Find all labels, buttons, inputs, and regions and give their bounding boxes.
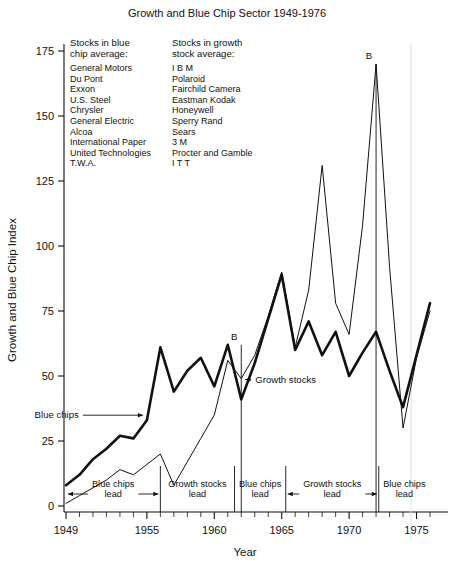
period-label-line2: lead [104,489,121,499]
x-axis-title: Year [233,546,256,558]
chart-canvas: Growth and Blue Chip Sector 1949-1976 Gr… [0,0,454,561]
y-tick-label: 100 [36,240,54,252]
legend-item: Procter and Gamble [172,148,253,158]
period-label: Growth stocks [168,479,227,489]
legend-item: Polaroid [172,74,205,84]
period-label-line2: lead [396,489,413,499]
legend-item: I B M [172,63,193,73]
legend-header-line2: chip average: [70,48,128,59]
x-tick-label: 1975 [404,524,428,536]
legend-item: United Technologies [70,148,151,158]
b-marker-label: B [231,331,237,342]
legend-item: General Electric [70,116,135,126]
y-tick-label: 25 [42,435,54,447]
period-label: Growth stocks [303,479,362,489]
legend-header-line1: Stocks in growth [172,37,242,48]
y-tick-label: 75 [42,305,54,317]
y-tick-label: 150 [36,110,54,122]
y-tick-label: 50 [42,370,54,382]
legend-item: Eastman Kodak [172,95,236,105]
legend-header-line2: stock average: [172,48,234,59]
legend-item: Fairchild Camera [172,84,241,94]
y-tick-label: 125 [36,175,54,187]
legend-item: Chrysler [70,105,104,115]
legend-item: Alcoa [70,127,93,137]
period-label: Blue chips [239,479,282,489]
period-label-line2: lead [324,489,341,499]
period-label: Blue chips [92,479,135,489]
x-tick-label: 1955 [135,524,159,536]
x-tick-label: 1949 [54,524,78,536]
legend-item: 3 M [172,137,187,147]
legend-item: T.W.A. [70,158,96,168]
chart-title: Growth and Blue Chip Sector 1949-1976 [128,7,326,19]
series-callout-label: Growth stocks [255,374,316,385]
legend-item: Exxon [70,84,95,94]
y-tick-label: 175 [36,45,54,57]
legend-header-line1: Stocks in blue [70,37,130,48]
y-axis-title: Growth and Blue Chip Index [6,218,18,362]
legend-item: I T T [172,158,191,168]
x-tick-label: 1960 [202,524,226,536]
legend-item: Du Pont [70,74,103,84]
legend-item: Sears [172,127,196,137]
b-marker-label: B [366,50,372,61]
legend-item: Honeywell [172,105,214,115]
x-tick-label: 1965 [269,524,293,536]
legend-item: U.S. Steel [70,95,111,105]
period-label-line2: lead [189,489,206,499]
y-tick-label: 0 [48,500,54,512]
legend-item: Sperry Rand [172,116,223,126]
period-label: Blue chips [383,479,426,489]
chart-figure: Growth and Blue Chip Sector 1949-1976 Gr… [0,0,454,561]
legend-item: General Motors [70,63,133,73]
series-callout-label: Blue chips [35,409,79,420]
x-tick-label: 1970 [337,524,361,536]
period-label-line2: lead [251,489,268,499]
legend-item: International Paper [70,137,146,147]
